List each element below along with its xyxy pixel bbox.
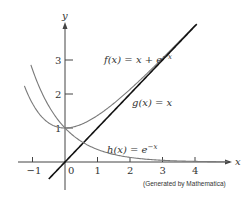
f-curve xyxy=(24,25,195,128)
f-curve-label: f(x) = x + e−x xyxy=(103,53,172,65)
x-tick-label: 3 xyxy=(160,165,166,176)
y-axis-arrow-icon xyxy=(63,22,68,29)
x-tick-label: 4 xyxy=(192,165,198,176)
credit-annotation: (Generated by Mathematica) xyxy=(143,180,226,187)
y-axis-label: y xyxy=(61,10,68,21)
h-curve-label: h(x) = e−x xyxy=(107,143,157,155)
g-line-label: g(x) = x xyxy=(132,97,173,108)
x-tick-label: 1 xyxy=(95,165,101,176)
x-tick-label: 0 xyxy=(68,165,74,176)
x-tick-label: −1 xyxy=(27,165,42,176)
axes: xy−101234123 xyxy=(18,10,241,190)
y-tick-label: 2 xyxy=(55,89,61,100)
x-axis-label: x xyxy=(235,156,241,167)
chart-plot-area: xy−101234123 f(x) = x + e−xg(x) = xh(x) … xyxy=(0,0,250,199)
y-tick-label: 3 xyxy=(55,55,61,66)
x-tick-label: 2 xyxy=(127,165,133,176)
curves xyxy=(24,24,227,179)
